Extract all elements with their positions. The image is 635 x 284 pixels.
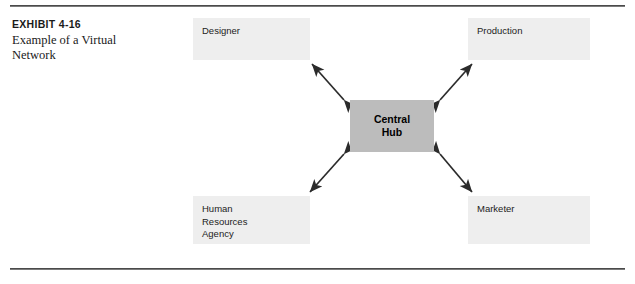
exhibit-caption: EXHIBIT 4-16 Example of a Virtual Networ…	[12, 18, 172, 63]
connector-hub-production	[440, 64, 472, 100]
bottom-divider-rule	[10, 268, 625, 270]
node-designer: Designer	[193, 18, 310, 60]
exhibit-subtitle: Example of a Virtual Network	[12, 33, 132, 63]
node-marketer: Marketer	[468, 196, 590, 244]
node-human-resources-agency: Human Resources Agency	[193, 196, 310, 244]
node-central-hub: Central Hub	[350, 100, 434, 152]
node-designer-label: Designer	[202, 25, 240, 38]
top-divider-rule	[10, 5, 625, 7]
node-human-resources-agency-label: Human Resources Agency	[202, 203, 247, 241]
node-central-hub-label: Central Hub	[374, 113, 410, 139]
exhibit-title: EXHIBIT 4-16	[12, 18, 172, 31]
connector-hub-marketer	[440, 154, 472, 192]
node-marketer-label: Marketer	[477, 203, 514, 216]
connector-hub-hr	[310, 154, 344, 192]
node-production-label: Production	[477, 25, 522, 38]
exhibit-figure: EXHIBIT 4-16 Example of a Virtual Networ…	[0, 0, 635, 284]
connector-hub-designer	[312, 64, 344, 100]
node-production: Production	[468, 18, 590, 60]
